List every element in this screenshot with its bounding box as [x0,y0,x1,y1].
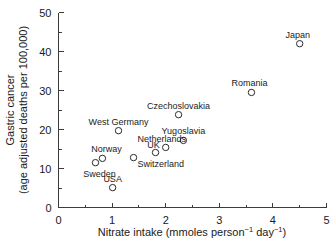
y-tick-label: 10 [39,163,51,175]
data-point-label: Netherlands [137,134,186,144]
y-axis-title-line-1: Gastric cancer [4,74,16,145]
svg-text:Nitrate intake (mmoles person−: Nitrate intake (mmoles person−1 day−1) [98,225,286,238]
y-tick-label: 50 [39,7,51,19]
data-point-marker [99,155,105,161]
y-tick-label: 0 [45,202,51,214]
data-point-label: UK [147,140,160,150]
data-point-marker [115,127,121,133]
data-point: Romania [231,78,267,95]
y-tick-label: 20 [39,124,51,136]
data-point: UK [147,140,160,156]
data-point-label: USA [103,174,122,184]
data-point-marker [175,111,181,117]
data-point-label: Czechoslovakia [147,101,210,111]
y-tick-label: 30 [39,85,51,97]
data-point-marker [109,184,115,190]
y-axis-tick-labels: 01020304050 [39,7,51,214]
x-axis-title: Nitrate intake (mmoles person−1 day−1) [98,225,286,238]
x-tick-label: 3 [216,214,222,226]
scatter-chart-figure: 012345 01020304050 JapanRomaniaCzechoslo… [0,0,334,246]
data-point-marker [130,154,136,160]
data-points-group: JapanRomaniaCzechoslovakiaWest GermanyYu… [83,30,310,191]
data-point-label: Romania [231,78,267,88]
data-point-marker [297,41,303,47]
data-point-label: West Germany [89,117,149,127]
data-point-label: Japan [285,30,310,40]
y-axis-title-line-2: (age adjusted deaths per 100,000) [17,26,29,194]
x-axis-ticks [59,203,327,208]
data-point-label: Switzerland [138,159,185,169]
y-tick-label: 40 [39,46,51,58]
data-point: Netherlands [137,134,186,150]
x-tick-label: 5 [323,214,329,226]
data-point: West Germany [89,117,149,134]
data-point: Switzerland [130,154,184,168]
x-tick-label: 4 [270,214,276,226]
data-point: Japan [285,30,310,47]
data-point: USA [103,174,122,191]
y-axis-ticks [59,13,64,208]
data-point-marker [92,159,98,165]
y-axis-title: Gastric cancer (age adjusted deaths per … [4,26,29,194]
data-point-label: Norway [91,144,122,154]
x-tick-label: 0 [55,214,61,226]
plot-canvas: 012345 01020304050 JapanRomaniaCzechoslo… [0,0,334,246]
data-point-marker [163,144,169,150]
x-tick-label: 2 [163,214,169,226]
x-axis-tick-labels: 012345 [55,214,329,226]
data-point: Czechoslovakia [147,101,210,118]
data-point-marker [248,89,254,95]
x-tick-label: 1 [109,214,115,226]
data-point-marker [152,149,158,155]
